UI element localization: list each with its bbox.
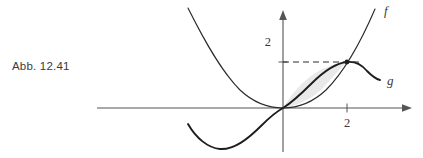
y-axis-arrow <box>279 10 287 20</box>
x-axis-label-2: 2 <box>344 116 350 130</box>
plot-canvas: 2 2 f g <box>0 0 423 158</box>
y-axis-label-2: 2 <box>265 35 271 49</box>
x-axis-arrow <box>402 104 412 112</box>
curve-f-path <box>188 8 375 108</box>
figure-container: Abb. 12.41 2 2 f g <box>0 0 423 158</box>
intersection-point-dot <box>345 60 350 65</box>
curve-label-g: g <box>387 73 394 88</box>
curve-g-path <box>188 62 380 149</box>
curve-label-f: f <box>384 3 390 18</box>
